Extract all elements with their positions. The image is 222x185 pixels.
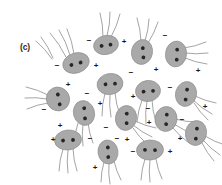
positive-charge-symbol: + <box>178 134 183 143</box>
positive-charge-symbol: + <box>94 61 99 70</box>
negative-charge-symbol: − <box>146 104 151 113</box>
positive-charge-symbol: + <box>93 163 98 172</box>
negative-charge-symbol: − <box>168 83 173 92</box>
negative-charge-symbol: − <box>85 89 90 98</box>
negative-charge-symbol: − <box>180 115 185 124</box>
positive-charge-symbol: + <box>131 92 136 101</box>
positive-charge-symbol: + <box>168 147 173 156</box>
negative-charge-symbol: − <box>55 61 60 70</box>
positive-charge-symbol: + <box>154 65 159 74</box>
negative-charge-symbol: − <box>88 134 93 143</box>
positive-charge-symbol: + <box>125 135 130 144</box>
positive-charge-symbol: + <box>196 66 201 75</box>
positive-charge-symbol: + <box>147 118 152 127</box>
negative-charge-symbol: − <box>42 105 47 114</box>
panel-label: (c) <box>20 42 30 52</box>
negative-charge-symbol: − <box>163 31 168 40</box>
positive-charge-symbol: + <box>122 37 127 46</box>
figure-panel-c: −+−++−++−−−−+++−−+−++−−+−+++ (c) <box>0 0 222 185</box>
positive-charge-symbol: + <box>98 99 103 108</box>
cell-suspension-diagram: −+−++−++−−−−+++−−+−++−−+−+++ <box>0 0 222 185</box>
positive-charge-symbol: + <box>51 135 56 144</box>
negative-charge-symbol: − <box>129 68 134 77</box>
negative-charge-symbol: − <box>115 134 120 143</box>
positive-charge-symbol: + <box>203 102 208 111</box>
negative-charge-symbol: − <box>87 36 92 45</box>
positive-charge-symbol: + <box>58 121 63 130</box>
negative-charge-symbol: − <box>131 147 136 156</box>
positive-charge-symbol: + <box>66 80 71 89</box>
negative-charge-symbol: − <box>104 123 109 132</box>
